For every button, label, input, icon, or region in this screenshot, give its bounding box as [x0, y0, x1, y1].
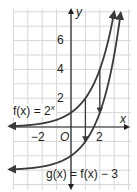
- axes: [16, 8, 130, 190]
- y-axis-arrow-up-icon: [68, 8, 74, 14]
- y-tick-6: 6: [57, 34, 64, 46]
- g-curve: [9, 13, 121, 170]
- f-label-text: f(x) = 2: [13, 104, 51, 118]
- curves: [9, 12, 121, 170]
- g-function-label: g(x) = f(x) − 3: [46, 168, 118, 180]
- y-axis-label: y: [76, 6, 82, 18]
- y-axis-arrow-down-icon: [68, 184, 74, 190]
- x-tick-neg2: −2: [31, 131, 45, 143]
- origin-label: O: [60, 131, 69, 143]
- graph-area: [0, 0, 137, 192]
- x-tick-2: 2: [96, 131, 103, 143]
- y-tick-4: 4: [57, 63, 64, 75]
- f-function-label: f(x) = 2x: [12, 104, 56, 117]
- grid-lines: [13, 9, 131, 190]
- f-label-exponent: x: [51, 103, 55, 112]
- y-tick-2: 2: [57, 92, 64, 104]
- x-axis-label: x: [120, 113, 126, 125]
